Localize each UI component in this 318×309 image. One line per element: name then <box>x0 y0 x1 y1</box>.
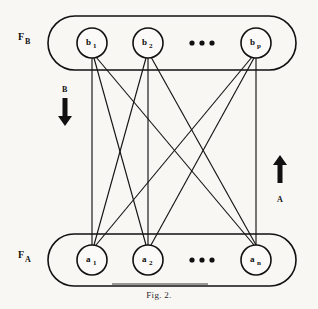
node-circle <box>133 245 163 275</box>
ellipsis-dot <box>189 257 194 262</box>
field-label-sub: A <box>25 255 31 264</box>
edge-bp-a2 <box>151 58 254 245</box>
node-circle <box>77 28 107 58</box>
ellipsis-dot <box>189 40 194 45</box>
node-circle <box>77 245 107 275</box>
node-label-sub: 2 <box>149 42 153 50</box>
node-label-main: b <box>142 37 147 47</box>
node-b2[interactable]: b 2 <box>133 28 163 58</box>
ellipsis-bottom <box>189 257 214 262</box>
arrow-up-icon <box>273 155 287 183</box>
node-label-sub: p <box>257 42 261 50</box>
node-label-sub: 1 <box>93 42 97 50</box>
node-circle <box>133 28 163 58</box>
node-a1[interactable]: a 1 <box>77 245 107 275</box>
node-b1[interactable]: b 1 <box>77 28 107 58</box>
ellipsis-dot <box>209 40 214 45</box>
edge-group <box>92 57 256 245</box>
ellipsis-dot <box>209 257 214 262</box>
node-label-main: a <box>142 254 147 264</box>
ellipsis-dot <box>199 40 204 45</box>
node-label-main: a <box>250 254 255 264</box>
node-label-sub: 1 <box>93 259 97 267</box>
node-label-sub: 2 <box>149 259 153 267</box>
field-label-sub: B <box>25 37 31 46</box>
ellipsis-top <box>189 40 214 45</box>
flow-arrow-up-label: A <box>277 195 283 204</box>
figure-caption: Fig. 2. <box>146 290 171 300</box>
node-bp[interactable]: b p <box>241 28 271 58</box>
bipartite-diagram: b 1 b 2 b p a 1 a 2 a n <box>0 0 318 309</box>
field-label-top: F B <box>18 31 31 46</box>
flow-arrow-down: B <box>58 85 72 126</box>
node-an[interactable]: a n <box>241 245 271 275</box>
flow-arrow-down-label: B <box>62 85 68 94</box>
node-label-main: b <box>86 37 91 47</box>
flow-arrow-up: A <box>273 155 287 204</box>
node-circle <box>241 28 271 58</box>
ellipsis-dot <box>199 257 204 262</box>
node-label-main: a <box>86 254 91 264</box>
node-label-main: b <box>250 37 255 47</box>
arrow-down-icon <box>58 98 72 126</box>
field-label-main: F <box>18 31 24 42</box>
field-label-bottom: F A <box>18 249 31 264</box>
node-label-sub: n <box>257 259 261 267</box>
node-a2[interactable]: a 2 <box>133 245 163 275</box>
node-circle <box>241 245 271 275</box>
field-label-main: F <box>18 249 24 260</box>
figure-container: b 1 b 2 b p a 1 a 2 a n <box>0 0 318 309</box>
